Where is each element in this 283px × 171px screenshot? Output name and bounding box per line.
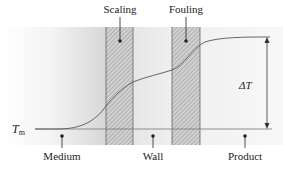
medium-label: Medium bbox=[43, 150, 81, 162]
scaling-band bbox=[106, 27, 133, 145]
product-label: Product bbox=[228, 150, 262, 162]
temperature-profile-diagram: ΔT Tm Scaling Fouling Medium Wall Produc… bbox=[0, 0, 283, 171]
fouling-band bbox=[172, 27, 200, 145]
scaling-label: Scaling bbox=[104, 3, 137, 15]
fouling-label: Fouling bbox=[169, 3, 204, 15]
wall-label: Wall bbox=[143, 150, 164, 162]
delta-t-label: ΔT bbox=[238, 79, 252, 91]
